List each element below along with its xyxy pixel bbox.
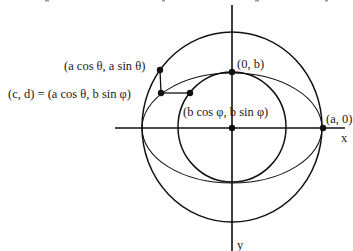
right-point-label: (a, 0) [326,112,352,126]
x-axis-label: x [341,131,348,145]
inner-point-label: (b cos φ, b sin φ) [183,105,268,119]
ellipse-point [158,90,164,96]
y-axis-label: y [237,238,244,251]
outer-circle-point [157,67,163,73]
inner-circle-point [187,90,193,96]
ellipse-point-label: (c, d) = (a cos θ, b sin φ) [8,87,131,101]
vertical-construction-line [160,70,161,93]
origin-point [229,125,235,131]
top-point [229,69,235,75]
top-point-label: (0, b) [237,57,264,71]
cropped-text-residue [45,0,328,2]
outer-point-label: (a cos θ, a sin θ) [64,59,145,73]
ellipse-diagram: (a cos θ, a sin θ) (c, d) = (a cos θ, b … [0,0,353,251]
